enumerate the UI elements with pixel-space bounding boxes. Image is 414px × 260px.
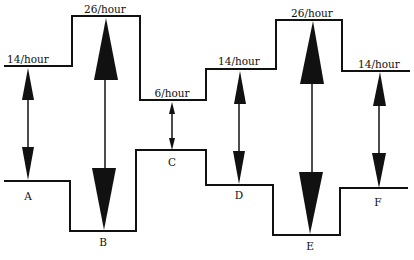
- lower-rate-boundary: [4, 150, 408, 235]
- double-arrow-e: [299, 21, 324, 234]
- double-arrow-d: [233, 71, 246, 184]
- upper-rate-boundary: [4, 16, 410, 100]
- point-label-f: F: [374, 197, 381, 208]
- point-label-d: D: [235, 190, 243, 201]
- point-label-b: B: [99, 237, 107, 248]
- rate-label-d: 14/hour: [218, 56, 260, 67]
- double-arrow-a: [22, 68, 34, 180]
- point-label-e: E: [306, 241, 314, 252]
- point-label-a: A: [24, 191, 32, 202]
- rate-label-a: 14/hour: [7, 54, 49, 65]
- rate-label-c: 6/hour: [154, 88, 189, 99]
- double-arrow-f: [372, 72, 386, 188]
- rate-label-f: 14/hour: [358, 59, 400, 70]
- double-arrow-c: [169, 102, 175, 150]
- point-label-c: C: [168, 157, 176, 168]
- rate-label-e: 26/hour: [291, 8, 333, 19]
- double-arrow-b: [92, 18, 118, 230]
- diagram-canvas: [0, 0, 414, 260]
- rate-label-b: 26/hour: [84, 4, 126, 15]
